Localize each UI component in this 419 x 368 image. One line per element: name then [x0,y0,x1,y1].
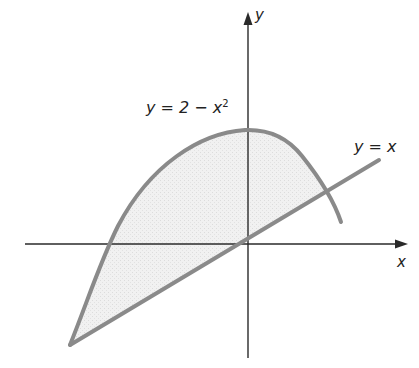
parabola-label-exponent: 2 [222,98,228,109]
parabola-label-text: y = 2 − x [146,98,222,117]
line-label: y = x [354,137,397,156]
y-axis-arrow-icon [244,12,253,25]
x-axis-arrow-icon [395,240,408,249]
shaded-region [70,130,327,345]
graph-figure [0,0,419,368]
parabola-label: y = 2 − x2 [146,98,229,117]
y-axis-label: y [255,6,264,24]
x-axis-label: x [397,253,406,271]
